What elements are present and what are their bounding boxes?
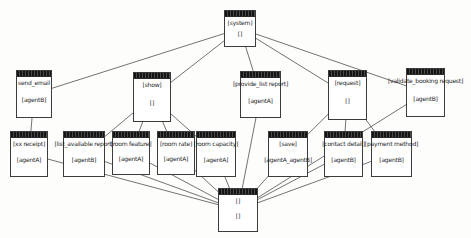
node-agent-label: [agentB] <box>413 95 438 102</box>
node-name-label: [system] <box>228 19 253 26</box>
node-name-label: [room feature] <box>111 140 152 147</box>
node-name-label: [xx receipt] <box>13 140 45 147</box>
window-titlebar-icon <box>269 132 307 138</box>
node-agent-label: [] <box>238 30 242 37</box>
node-name-label: [request] <box>335 79 361 86</box>
window-titlebar-icon <box>241 72 280 78</box>
node-name-label: [room rate] <box>160 140 192 147</box>
diagram-node-validate-booking-request: [validate_booking request] [agentB] <box>406 68 445 117</box>
window-titlebar-icon <box>329 71 366 77</box>
diagram-node-xx-receipt: [xx receipt] [agentA] <box>10 131 48 177</box>
node-agent-label: [agentA] <box>164 155 189 162</box>
node-name-label: [room capacity] <box>194 140 238 147</box>
node-agent-label: [agentA] <box>119 155 144 162</box>
node-agent-label: [agentA] <box>248 97 273 104</box>
node-name-label: [save] <box>279 140 297 147</box>
node-name-label: [provide_list report] <box>233 80 288 87</box>
diagram-node-send-email: send_email [agentB] <box>16 70 52 118</box>
diagram-node-payment-method: [payment method] [agentB] <box>371 131 412 177</box>
diagram-node-show: [show] [] <box>133 72 171 122</box>
node-agent-label: [agentA] <box>204 156 229 163</box>
node-agent-label: [] <box>236 212 240 219</box>
diagram-node-list-available-report: [list_available report] [agentB] <box>63 131 105 177</box>
node-agent-label: [agentA_agentB] <box>264 156 312 163</box>
node-agent-label: [agentB] <box>379 156 404 163</box>
window-titlebar-icon <box>219 189 257 195</box>
node-name-label: [show] <box>143 81 162 88</box>
node-name-label: [validate_booking request] <box>388 77 463 84</box>
diagram-node-system: [system] [] <box>224 10 256 47</box>
node-name-label: send_email <box>18 79 50 86</box>
node-name-label: [] <box>236 197 240 204</box>
node-agent-label: [] <box>345 97 349 104</box>
diagram-node-room-capacity: [room capacity] [agentA] <box>196 131 236 177</box>
window-titlebar-icon <box>225 11 255 17</box>
diagram-canvas: [system] [] send_email [agentB] [show] [… <box>0 0 471 238</box>
node-agent-label: [agentB] <box>72 156 97 163</box>
diagram-node-provide-list-report: [provide_list report] [agentA] <box>240 71 281 118</box>
window-titlebar-icon <box>11 132 47 138</box>
diagram-node-save: [save] [agentA_agentB] <box>268 131 308 177</box>
window-titlebar-icon <box>197 132 235 138</box>
node-agent-label: [agentA] <box>17 156 42 163</box>
window-titlebar-icon <box>158 132 194 138</box>
edge-line-payment-method-end <box>238 154 392 210</box>
window-titlebar-icon <box>113 132 149 138</box>
window-titlebar-icon <box>134 73 170 79</box>
diagram-node-end: [] [] <box>218 188 258 232</box>
diagram-node-contact-detail: [contact detail] [agentB] <box>324 131 363 177</box>
window-titlebar-icon <box>372 132 411 138</box>
window-titlebar-icon <box>407 69 444 75</box>
diagram-node-room-feature: [room feature] [agentA] <box>112 131 150 175</box>
node-name-label: [contact detail] <box>322 140 365 147</box>
diagram-node-room-rate: [room rate] [agentA] <box>157 131 195 175</box>
window-titlebar-icon <box>325 132 362 138</box>
node-name-label: [payment method] <box>365 140 418 147</box>
node-name-label: [list_available report] <box>54 140 113 147</box>
diagram-node-request: [request] [] <box>328 70 367 120</box>
node-agent-label: [agentB] <box>331 156 356 163</box>
window-titlebar-icon <box>17 71 51 77</box>
window-titlebar-icon <box>64 132 104 138</box>
node-agent-label: [agentB] <box>22 96 47 103</box>
node-agent-label: [] <box>150 99 154 106</box>
